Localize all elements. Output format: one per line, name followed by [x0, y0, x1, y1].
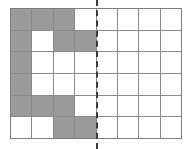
grid-cell-shaded	[11, 31, 31, 52]
grid-container	[10, 8, 182, 139]
grid-cell-empty	[75, 52, 95, 73]
grid-cell-empty	[54, 52, 74, 73]
grid-cell-empty	[161, 31, 181, 52]
grid-cell-empty	[32, 31, 52, 52]
grid-cell-empty	[75, 9, 95, 30]
grid-cell-empty	[161, 117, 181, 138]
grid-cell-empty	[118, 31, 138, 52]
grid-cell-empty	[118, 96, 138, 117]
grid-cell-shaded	[32, 9, 52, 30]
symmetry-grid-figure	[0, 0, 191, 149]
grid-cell-empty	[139, 52, 159, 73]
grid-cell-shaded	[11, 74, 31, 95]
grid-cell-empty	[32, 74, 52, 95]
grid-cell-empty	[139, 9, 159, 30]
grid-cell-empty	[139, 96, 159, 117]
grid-cell-empty	[161, 9, 181, 30]
grid-cell-shaded	[54, 96, 74, 117]
grid-cell-empty	[11, 117, 31, 138]
grid-cell-shaded	[11, 9, 31, 30]
grid-cell-empty	[97, 31, 117, 52]
grid-cell-empty	[139, 31, 159, 52]
grid-cell-shaded	[75, 117, 95, 138]
grid-cell-empty	[139, 117, 159, 138]
grid-cell-empty	[97, 9, 117, 30]
grid-cell-empty	[161, 74, 181, 95]
grid-cell-empty	[97, 117, 117, 138]
grid-cell-empty	[97, 74, 117, 95]
grid-cell-empty	[75, 74, 95, 95]
grid-cell-empty	[139, 74, 159, 95]
grid-cell-empty	[97, 96, 117, 117]
grid-cell-shaded	[54, 117, 74, 138]
grid-cell-shaded	[11, 52, 31, 73]
cell-grid	[10, 8, 182, 139]
grid-cell-shaded	[75, 31, 95, 52]
grid-cell-empty	[118, 117, 138, 138]
grid-cell-empty	[118, 52, 138, 73]
grid-cell-empty	[32, 52, 52, 73]
grid-cell-empty	[32, 117, 52, 138]
grid-cell-empty	[161, 96, 181, 117]
grid-cell-empty	[118, 74, 138, 95]
grid-cell-empty	[97, 52, 117, 73]
grid-cell-shaded	[32, 96, 52, 117]
grid-cell-empty	[118, 9, 138, 30]
grid-cell-shaded	[11, 96, 31, 117]
grid-cell-empty	[75, 96, 95, 117]
grid-cell-shaded	[54, 31, 74, 52]
grid-cell-shaded	[54, 9, 74, 30]
grid-cell-empty	[54, 74, 74, 95]
grid-cell-empty	[161, 52, 181, 73]
